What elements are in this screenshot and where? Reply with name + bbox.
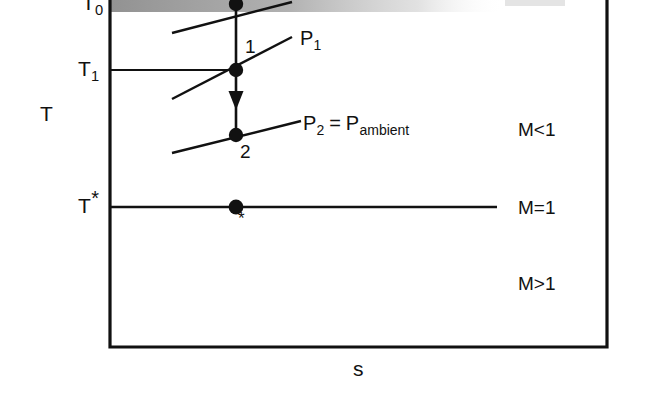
state-point-1	[229, 63, 243, 77]
tick-label-tstar-asterisk: *	[91, 187, 99, 209]
tick-label-t0: T0	[82, 0, 103, 13]
isobar-label-p2-equals: =	[329, 112, 341, 134]
axis-frame	[110, 0, 607, 347]
scan-shadow-band-speck	[505, 0, 565, 6]
tick-label-tstar: T*	[78, 195, 99, 217]
tick-label-tstar-base: T	[78, 194, 91, 217]
isobar-label-p1: P1	[300, 28, 321, 48]
tick-label-t1: T1	[78, 58, 99, 79]
y-axis-label: T	[40, 103, 53, 124]
isobar-label-p2-base: P	[303, 112, 316, 134]
isobar-label-pambient-base: P	[346, 112, 359, 134]
isobar-label-p2: P2=Pambient	[303, 113, 409, 133]
mach-region-label-subsonic: M<1	[518, 120, 556, 139]
state-label-star: *	[238, 210, 245, 227]
scan-shadow-band	[110, 0, 505, 12]
state-label-2: 2	[240, 142, 251, 161]
mach-region-label-supersonic: M>1	[518, 274, 556, 293]
mach-region-label-sonic: M=1	[518, 198, 556, 217]
tick-label-t0-base: T	[82, 0, 95, 14]
x-axis-label: s	[353, 358, 364, 379]
isobar-label-p1-base: P	[300, 27, 313, 49]
isobar-label-p2-subscript: 2	[317, 122, 325, 138]
tick-label-t1-subscript: 1	[91, 68, 99, 84]
isobar-label-pambient-subscript: ambient	[359, 122, 409, 138]
tick-label-t0-subscript: 0	[95, 2, 103, 18]
tick-label-t1-base: T	[78, 57, 91, 80]
isobar-label-p1-subscript: 1	[314, 37, 322, 53]
process-arrow-head	[229, 91, 244, 110]
ts-diagram-figure: T s T0 T1 T* 1 2 * P1 P2=Pambient M<1 M=…	[0, 0, 648, 408]
state-label-1: 1	[245, 37, 256, 56]
